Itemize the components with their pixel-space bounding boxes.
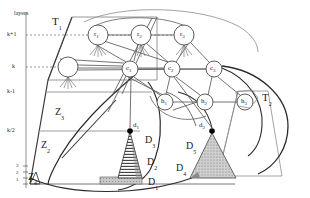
- label-D4-sub: 4: [183, 171, 186, 177]
- node-h2[interactable]: h2: [201, 98, 207, 105]
- label-D3-sub: 3: [152, 143, 155, 149]
- label-T1-sub: 1: [59, 25, 62, 31]
- point-d1-base: d: [133, 121, 137, 129]
- node-r3[interactable]: r3: [180, 31, 185, 38]
- node-r2-sub: 2: [139, 34, 142, 39]
- node-h3[interactable]: h3: [241, 98, 247, 105]
- node-c2[interactable]: c2: [168, 65, 174, 72]
- label-Z3: Z3: [55, 107, 64, 119]
- node-h1[interactable]: h1: [161, 98, 167, 105]
- label-D5: D5: [186, 141, 196, 153]
- figure-canvas: layers k+1 k k-1 k/2 3 2 1 T1 T2 Z3 Z2 Z…: [0, 0, 310, 198]
- label-D3: D3: [145, 135, 155, 147]
- label-D2: D2: [147, 157, 157, 169]
- label-D5-sub: 5: [193, 149, 196, 155]
- label-T2-base: T: [262, 91, 269, 103]
- node-h2-label: h: [201, 97, 205, 105]
- label-D2-sub: 2: [154, 165, 157, 171]
- label-Z3-sub: 3: [61, 115, 64, 121]
- point-d2-label: d2: [199, 122, 205, 129]
- node-c2-sub: 2: [171, 68, 174, 73]
- label-T1-base: T: [52, 15, 59, 27]
- node-c3[interactable]: c3: [210, 65, 216, 72]
- distribution-left: [100, 128, 142, 184]
- label-Z4: Z4: [28, 172, 37, 184]
- label-T1: T1: [52, 16, 62, 29]
- label-D1-sub: 1: [155, 185, 158, 191]
- axis-tick-k-plus-1: k+1: [7, 31, 16, 37]
- node-c1[interactable]: c1: [126, 65, 132, 72]
- label-Z2: Z2: [41, 140, 50, 152]
- node-h1-sub: 1: [165, 101, 168, 106]
- axis-tick-k: k: [12, 63, 15, 69]
- node-r1[interactable]: r1: [94, 31, 99, 38]
- point-d2-base: d: [199, 121, 203, 129]
- label-Z4-sub: 4: [34, 180, 37, 186]
- node-h3-label: h: [241, 97, 245, 105]
- node-h2-sub: 2: [205, 101, 208, 106]
- axis-tick-2: 2: [16, 170, 19, 175]
- axis-tick-3: 3: [16, 163, 19, 168]
- node-r1-sub: 1: [96, 34, 99, 39]
- label-D4: D4: [176, 163, 186, 175]
- node-unlabeled-k-circle: [58, 57, 78, 77]
- node-h3-sub: 3: [245, 101, 248, 106]
- axis-tick-1: 1: [16, 177, 19, 182]
- point-d2-sub: 2: [203, 125, 206, 130]
- node-c1-sub: 1: [129, 68, 132, 73]
- node-r3-sub: 3: [182, 34, 185, 39]
- node-c3-sub: 3: [213, 68, 216, 73]
- label-Z2-sub: 2: [47, 148, 50, 154]
- point-d1-label: d1: [133, 122, 139, 129]
- label-D1: D1: [148, 177, 158, 189]
- axis-caption: layers: [14, 10, 28, 16]
- node-r2[interactable]: r2: [137, 31, 142, 38]
- node-h1-label: h: [161, 97, 165, 105]
- point-d1-sub: 1: [137, 125, 140, 130]
- label-T2-sub: 2: [269, 101, 272, 107]
- axis-tick-k-over-2: k/2: [7, 127, 15, 133]
- axis-tick-k-minus-1: k-1: [7, 88, 15, 94]
- distribution-right: [190, 128, 236, 178]
- label-T2: T2: [262, 92, 272, 105]
